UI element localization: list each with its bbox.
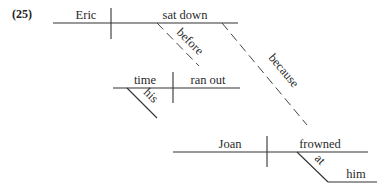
before-clause-subject: time <box>134 73 157 87</box>
before-clause-verb: ran out <box>190 73 226 87</box>
main-verb: sat down <box>163 8 209 22</box>
example-number: (25) <box>12 7 32 21</box>
because-clause-verb: frowned <box>299 137 341 151</box>
him-object-label: him <box>346 167 366 181</box>
at-preposition-label: at <box>312 151 329 168</box>
because-connector-label: because <box>266 51 302 91</box>
before-connector-label: before <box>174 25 207 58</box>
main-subject: Eric <box>76 8 97 22</box>
sentence-diagram: (25) Eric sat down before because time r… <box>0 0 391 192</box>
because-clause-subject: Joan <box>219 137 243 151</box>
